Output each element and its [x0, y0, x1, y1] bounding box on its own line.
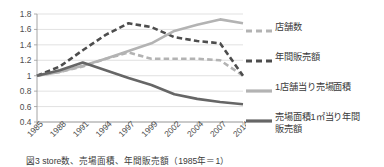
legend-label: 店舗数 — [275, 22, 302, 34]
legend-label: 売場面積1㎡当り年間 販売額 — [275, 112, 360, 135]
y-axis-tick-labels: 0.40.60.811.21.41.61.8 — [20, 9, 32, 127]
svg-text:1.8: 1.8 — [20, 9, 32, 19]
svg-text:1: 1 — [27, 71, 32, 81]
legend-swatch-1 — [246, 23, 272, 35]
svg-text:1.2: 1.2 — [20, 55, 32, 65]
svg-text:1.6: 1.6 — [20, 24, 32, 34]
legend-label: 1店舗当り売場面積 — [275, 82, 351, 94]
plot-area: 0.40.60.811.21.41.61.8 19851988199119941… — [0, 0, 246, 167]
legend-item[interactable]: 1店舗当り売場面積 — [246, 82, 384, 94]
figure-caption: 図3 store数、売場面積、年間販売額（1985年＝1） — [26, 156, 384, 166]
legend-swatch-2 — [246, 53, 272, 65]
line-chart-svg: 0.40.60.811.21.41.61.8 19851988199119941… — [0, 0, 246, 167]
svg-text:0.6: 0.6 — [20, 102, 32, 112]
svg-text:0.8: 0.8 — [20, 86, 32, 96]
chart-legend: 店舗数年間販売額1店舗当り売場面積売場面積1㎡当り年間 販売額 — [246, 0, 384, 155]
axis-ticks — [37, 122, 243, 126]
legend-swatch-4 — [246, 113, 272, 125]
svg-text:1.4: 1.4 — [20, 40, 32, 50]
legend-item[interactable]: 店舗数 — [246, 22, 384, 34]
legend-label: 年間販売額 — [275, 52, 320, 64]
chart-container: 0.40.60.811.21.41.61.8 19851988199119941… — [0, 0, 384, 167]
legend-item[interactable]: 売場面積1㎡当り年間 販売額 — [246, 112, 384, 135]
legend-swatch-3 — [246, 83, 272, 95]
legend-item[interactable]: 年間販売額 — [246, 52, 384, 64]
